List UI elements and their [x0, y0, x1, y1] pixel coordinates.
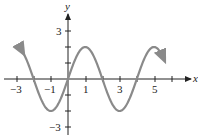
x-tick-label-neg1: −1	[44, 83, 56, 95]
x-tick-label-1: 1	[83, 83, 89, 95]
y-tick-label-3: 3	[56, 25, 62, 37]
y-tick-label-neg3: −3	[49, 121, 61, 133]
x-tick-label-5: 5	[152, 83, 158, 95]
sine-graph: −3 −1 1 3 5 3 −3 y x	[0, 0, 198, 136]
y-axis-label: y	[64, 0, 70, 12]
x-axis-label: x	[192, 72, 198, 84]
x-tick-label-neg3: −3	[10, 83, 22, 95]
x-tick-label-3: 3	[117, 83, 123, 95]
